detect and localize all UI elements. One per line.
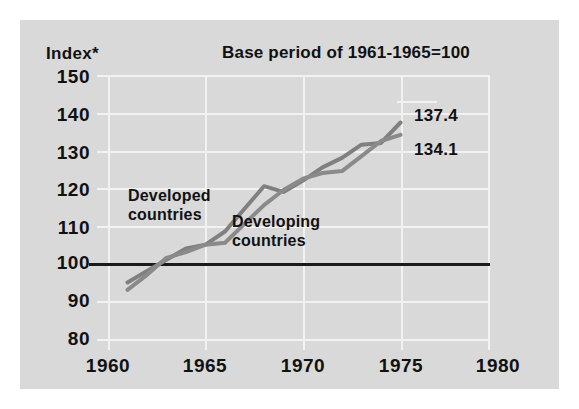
y-axis-ticks: 150 140 130 120 110 100 90 80 [30,0,90,409]
x-tick-1975: 1975 [356,355,446,377]
y-tick-110: 110 [34,218,90,237]
y-tick-130: 130 [34,143,90,162]
gridline-150-right-stub [397,101,437,103]
annotation-developing-countries: Developing countries [232,212,320,250]
annotation-developing-line1: Developing [232,212,320,231]
annotation-developed-countries: Developed countries [128,186,211,224]
x-tick-1970: 1970 [258,355,348,377]
annotation-developed-line2: countries [128,205,211,224]
chart-title: Base period of 1961-1965=100 [222,43,470,63]
value-label-137-4: 137.4 [414,106,458,126]
x-tick-1980: 1980 [453,355,543,377]
y-tick-100: 100 [34,253,90,272]
annotation-developing-line2: countries [232,231,320,250]
y-tick-150: 150 [34,67,90,86]
y-tick-80: 80 [34,329,90,348]
annotation-developed-line1: Developed [128,186,211,205]
value-label-134-1: 134.1 [414,140,458,160]
y-tick-90: 90 [34,291,90,310]
y-tick-120: 120 [34,180,90,199]
x-tick-1965: 1965 [160,355,250,377]
y-tick-140: 140 [34,105,90,124]
chart-figure: Index* Base period of 1961-1965=100 150 … [0,0,579,409]
x-tick-1960: 1960 [63,355,153,377]
